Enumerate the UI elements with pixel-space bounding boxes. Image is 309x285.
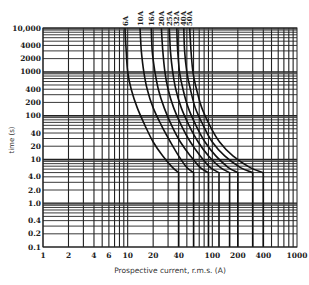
x-tick-label: 400 — [255, 251, 271, 260]
y-tick-label: 10,000 — [12, 24, 41, 33]
y-tick-label: 400 — [25, 85, 41, 94]
y-tick-label: 40 — [31, 129, 41, 138]
y-tick-label: 0.4 — [28, 216, 41, 225]
x-tick-label: 2 — [66, 251, 71, 260]
x-tick-label: 10 — [122, 251, 132, 260]
x-tick-label: 4 — [91, 251, 96, 260]
y-tick-label: 4.0 — [28, 172, 41, 181]
y-tick-label: 0.1 — [28, 243, 41, 252]
x-tick-label: 20 — [148, 251, 158, 260]
x-tick-label: 200 — [230, 251, 246, 260]
y-tick-label: 2.0 — [28, 186, 41, 195]
y-tick-label: 2000 — [20, 54, 41, 63]
y-tick-label: 1.0 — [28, 199, 41, 208]
x-axis-title: Prospective current, r.m.s. (A) — [114, 266, 226, 275]
curve-label: 16A — [147, 10, 156, 26]
x-tick-label: 6 — [106, 251, 111, 260]
x-tick-label: 1000 — [287, 251, 308, 260]
y-tick-label: 4000 — [20, 41, 41, 50]
curve-label: 10A — [136, 10, 145, 26]
x-tick-label: 100 — [205, 251, 221, 260]
curve-label: 6A — [121, 15, 130, 26]
y-tick-label: 10 — [31, 155, 41, 164]
y-tick-label: 1000 — [20, 67, 41, 76]
y-tick-label: 20 — [31, 142, 41, 151]
y-tick-label: 0.2 — [28, 229, 41, 238]
y-axis-title: time (s) — [8, 126, 16, 153]
x-tick-label: 1 — [40, 251, 45, 260]
curve-label: 50A — [185, 10, 194, 26]
fuse-time-current-chart: 10,0004000200010004002001004020104.02.01… — [0, 0, 309, 285]
y-tick-label: 100 — [25, 111, 41, 120]
y-tick-label: 200 — [25, 98, 41, 107]
x-tick-label: 40 — [173, 251, 183, 260]
